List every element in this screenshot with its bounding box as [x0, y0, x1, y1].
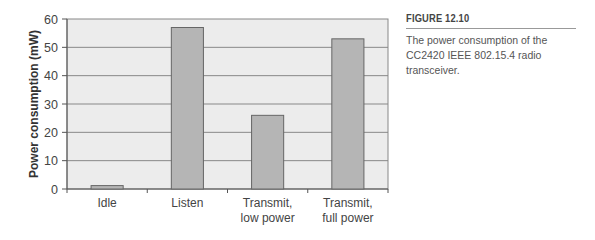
x-tick-label: low power [241, 211, 295, 225]
bar-listen [171, 28, 203, 190]
y-tick-label: 30 [44, 98, 58, 112]
figure-label: FIGURE 12.10 [406, 12, 576, 29]
x-tick-label: Listen [171, 196, 203, 210]
figure-caption: FIGURE 12.10 The power consumption of th… [406, 12, 586, 78]
x-tick-label: full power [322, 211, 373, 225]
bar-idle [91, 186, 123, 189]
y-tick-label: 0 [51, 183, 58, 197]
bar-transmit-low-power [252, 115, 284, 189]
x-tick-label: Idle [97, 196, 117, 210]
figure-description: The power consumption of the CC2420 IEEE… [406, 33, 586, 78]
y-axis-label: Power consumption (mW) [27, 30, 41, 178]
y-tick-label: 40 [44, 69, 58, 83]
bar-transmit-full-power [332, 39, 364, 189]
y-tick-label: 20 [44, 126, 58, 140]
y-tick-label: 50 [44, 41, 58, 55]
y-tick-label: 60 [44, 13, 58, 27]
x-tick-label: Transmit, [243, 196, 293, 210]
x-tick-label: Transmit, [323, 196, 373, 210]
bar-chart: 0102030405060IdleListenTransmit,low powe… [0, 0, 400, 240]
y-tick-label: 10 [44, 154, 58, 168]
